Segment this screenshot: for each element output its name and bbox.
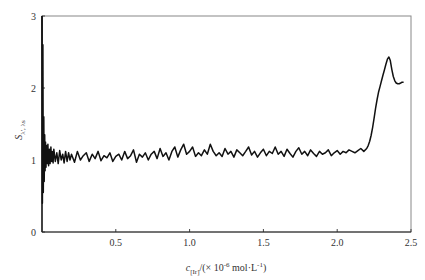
- x-tick-label: 2.5: [405, 237, 418, 248]
- x-tick-label: 1.0: [183, 237, 196, 248]
- data-series-line: [42, 16, 404, 203]
- x-axis-label-sub: [Ir]: [190, 268, 199, 276]
- y-axis-label: Sλ', λs: [13, 120, 27, 140]
- chart: 0123 0.51.01.52.02.5 Sλ', λs c[Ir]/(× 10…: [0, 0, 425, 280]
- y-axis-label-sub: λ', λs: [19, 120, 27, 135]
- x-tick-label: 2.0: [331, 237, 344, 248]
- y-tick-label: 2: [31, 83, 36, 94]
- x-axis-label-unit: mol·L: [230, 262, 258, 273]
- x-axis-label-rest: /(× 10: [200, 262, 224, 274]
- x-axis-label-close: ): [263, 262, 266, 274]
- svg-text:Sλ', λs: Sλ', λs: [13, 120, 27, 140]
- y-tick-label: 1: [31, 155, 36, 166]
- y-tick-label: 0: [31, 227, 36, 238]
- plot-frame: [42, 16, 411, 232]
- y-tick-label: 3: [31, 11, 36, 22]
- x-tick-label: 0.5: [110, 237, 123, 248]
- x-axis-label: c[Ir]/(× 10-6 mol·L-1): [186, 261, 267, 276]
- x-tick-label: 1.5: [257, 237, 270, 248]
